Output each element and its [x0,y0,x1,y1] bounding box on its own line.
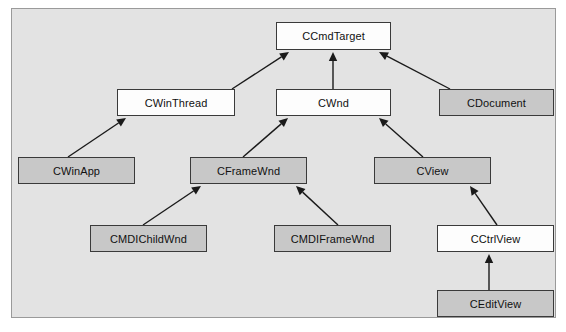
class-node-label: CCtrlView [471,233,521,245]
class-node-cdocument[interactable]: CDocument [439,89,554,116]
class-node-label: CMDIChildWnd [110,233,187,245]
class-node-label: CView [416,165,448,177]
class-node-label: CEditView [470,298,521,310]
class-node-ccmdtarget[interactable]: CCmdTarget [276,22,391,50]
inheritance-arrow-cwinthread-to-ccmdtarget [232,52,289,89]
inheritance-arrow-cctrlview-to-cview [470,186,497,225]
inheritance-arrow-cwinapp-to-cwinthread [68,118,126,157]
inheritance-arrow-cdocument-to-ccmdtarget [379,52,450,89]
class-node-label: CWnd [318,97,349,109]
inheritance-arrow-cwnd-to-ccmdtarget [329,52,337,89]
class-node-cframewnd[interactable]: CFrameWnd [190,157,307,184]
class-node-label: CDocument [467,97,526,109]
class-node-cmdichildwnd[interactable]: CMDIChildWnd [90,225,207,252]
inheritance-arrow-cmdichildwnd-to-cframewnd [143,186,201,225]
inheritance-arrow-ceditview-to-cctrlview [485,254,493,290]
inheritance-arrow-cframewnd-to-cwnd [243,118,288,157]
class-node-label: CWinApp [53,165,100,177]
class-node-cwnd[interactable]: CWnd [276,89,391,116]
class-node-cmdiframewnd[interactable]: CMDIFrameWnd [274,225,391,252]
class-node-label: CMDIFrameWnd [291,233,375,245]
class-node-label: CFrameWnd [217,165,280,177]
inheritance-arrow-cmdiframewnd-to-cframewnd [296,186,338,225]
inheritance-arrow-cview-to-cwnd [379,118,423,157]
class-node-label: CWinThread [145,97,208,109]
class-node-ceditview[interactable]: CEditView [437,290,554,317]
class-node-cctrlview[interactable]: CCtrlView [437,225,554,252]
diagram-canvas: CCmdTargetCWinThreadCWndCDocumentCWinApp… [0,0,566,332]
class-node-cwinthread[interactable]: CWinThread [117,89,235,116]
class-node-label: CCmdTarget [302,30,365,42]
class-node-cview[interactable]: CView [374,157,491,184]
class-node-cwinapp[interactable]: CWinApp [18,157,135,184]
